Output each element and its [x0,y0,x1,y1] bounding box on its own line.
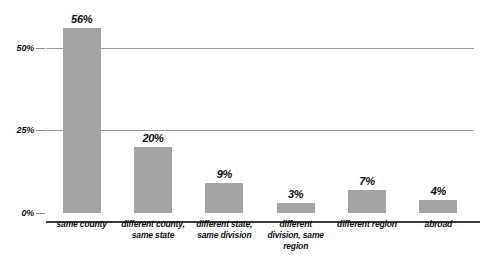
bar-group: 4% [419,8,457,213]
y-axis-label-0: 0% [0,208,34,218]
y-axis-label-25: 25% [0,125,34,135]
category-label: different division, same region [263,219,328,252]
category-label: abroad [406,219,471,230]
bar-chart: 50% 25% 0% 56%20%9%3%7%4% same countydif… [0,0,481,266]
bar-value-label: 9% [217,168,232,180]
y-axis-labels: 50% 25% 0% [0,0,34,266]
bar-group: 20% [134,8,172,213]
bar-group: 3% [277,8,315,213]
bar-value-label: 56% [71,13,92,25]
bar: 7% [348,190,386,213]
category-label: different state, same division [192,219,257,241]
bar-value-label: 7% [359,175,374,187]
y-tick-25 [36,130,45,131]
bar: 20% [134,147,172,213]
bar-group: 56% [63,8,101,213]
y-tick-50 [36,48,45,49]
bar: 4% [419,200,457,213]
category-label: different county, same state [120,219,185,241]
bar-group: 9% [205,8,243,213]
y-axis-label-50: 50% [0,43,34,53]
y-tick-0 [36,213,45,214]
category-label: different region [334,219,399,230]
bars-layer: 56%20%9%3%7%4% [46,8,474,213]
bar-value-label: 20% [142,132,163,144]
bar-value-label: 3% [288,188,303,200]
bar-value-label: 4% [431,185,446,197]
bar: 9% [205,183,243,213]
category-label: same county [49,219,114,230]
bar-group: 7% [348,8,386,213]
category-labels: same countydifferent county, same stated… [46,219,474,265]
bar: 56% [63,28,101,213]
bar: 3% [277,203,315,213]
